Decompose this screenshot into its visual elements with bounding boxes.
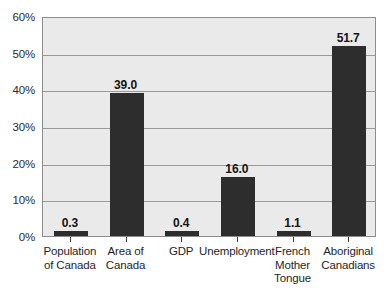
bar (221, 177, 255, 236)
bar (277, 231, 311, 236)
bar (110, 93, 144, 236)
y-axis-tick-label: 0% (19, 231, 35, 243)
x-axis-tick (293, 237, 294, 242)
x-axis-tick (237, 237, 238, 242)
y-axis-tick-label: 20% (13, 158, 35, 170)
bar-value-label: 0.3 (62, 216, 78, 230)
x-axis-tick (70, 237, 71, 242)
x-axis-tick (348, 237, 349, 242)
bar (332, 46, 366, 236)
y-axis-tick-label: 30% (13, 121, 35, 133)
x-axis-category-label: Population of Canada (43, 245, 96, 272)
y-axis-tick-label: 40% (13, 84, 35, 96)
plot-area (42, 17, 376, 237)
x-axis-category-label: Aboriginal Canadians (321, 245, 375, 272)
bar-chart: 0%10%20%30%40%50%60% 0.3Population of Ca… (0, 0, 387, 292)
x-axis-tick (181, 237, 182, 242)
y-axis: 0%10%20%30%40%50%60% (0, 0, 38, 292)
y-axis-tick-label: 50% (13, 48, 35, 60)
y-axis-tick-label: 10% (13, 194, 35, 206)
bar (165, 231, 199, 236)
x-axis-category-label: French Mother Tongue (274, 245, 311, 286)
bar-value-label: 16.0 (225, 162, 248, 176)
bar-value-label: 1.1 (284, 216, 300, 230)
x-axis-tick (126, 237, 127, 242)
bar-value-label: 39.0 (114, 78, 137, 92)
x-axis-category-label: GDP (169, 245, 193, 259)
x-axis-category-label: Area of Canada (106, 245, 145, 272)
y-axis-tick-label: 60% (13, 11, 35, 23)
bars (43, 18, 375, 236)
bar-value-label: 0.4 (173, 216, 189, 230)
bar (54, 231, 88, 236)
x-axis-category-label: Unemployment (199, 245, 275, 259)
bar-value-label: 51.7 (337, 31, 360, 45)
